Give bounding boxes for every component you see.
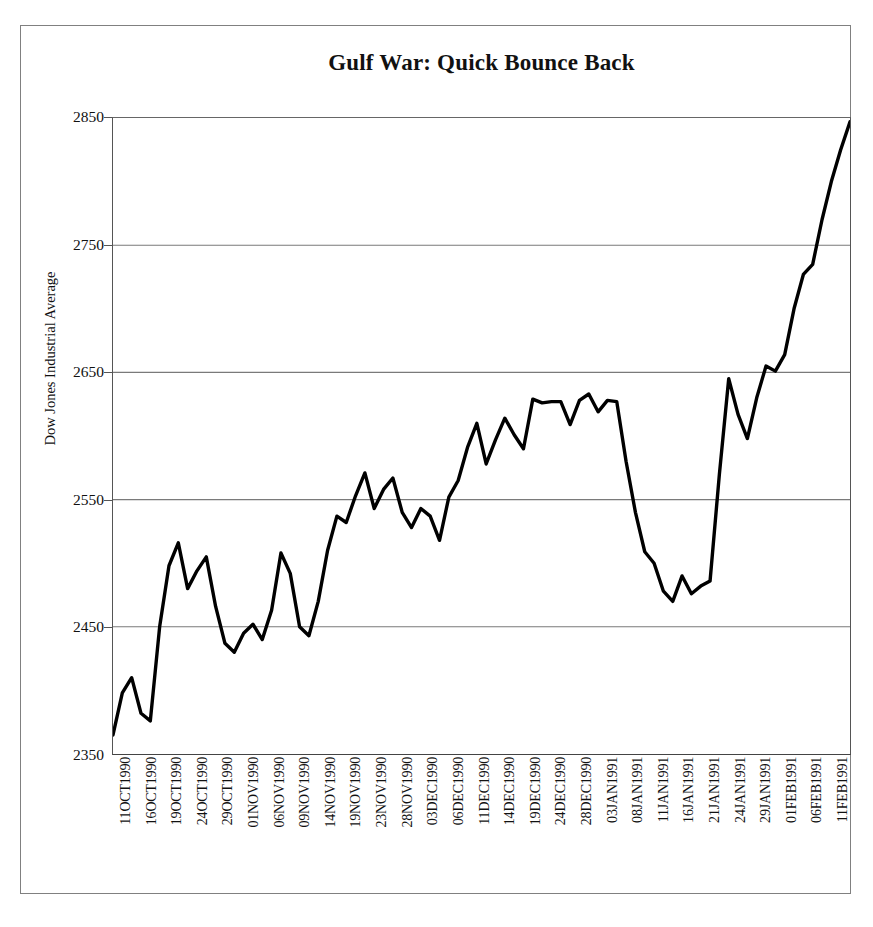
gridlines [113, 245, 850, 627]
x-tick-label: 28DEC1990 [579, 757, 595, 825]
y-tick-label: 2850 [48, 109, 104, 125]
x-tick-label: 28NOV1990 [400, 757, 416, 828]
x-tick-label: 21JAN1991 [707, 757, 723, 823]
chart-container: Gulf War: Quick Bounce Back Dow Jones In… [0, 0, 873, 927]
x-tick-label: 11DEC1990 [477, 757, 493, 825]
chart-title: Gulf War: Quick Bounce Back [112, 50, 851, 76]
x-tick-label: 03DEC1990 [425, 757, 441, 825]
data-line-plot [113, 118, 850, 754]
x-tick-label: 11JAN1991 [656, 757, 672, 822]
x-tick-label: 06DEC1990 [451, 757, 467, 825]
x-tick-label: 24DEC1990 [553, 757, 569, 825]
y-tick-label: 2450 [48, 619, 104, 635]
x-tick-label: 24OCT1990 [195, 757, 211, 825]
y-tick-mark [104, 245, 112, 246]
x-tick-label: 11FEB1991 [835, 757, 851, 822]
y-tick-label: 2350 [48, 747, 104, 763]
x-axis-tick-labels: 11OCT199016OCT199019OCT199024OCT199029OC… [112, 757, 851, 877]
x-tick-label: 08JAN1991 [630, 757, 646, 823]
y-tick-mark [104, 117, 112, 118]
y-tick-label: 2650 [48, 364, 104, 380]
y-axis-tick-labels: 235024502550265027502850 [40, 117, 104, 755]
x-tick-label: 06FEB1991 [809, 757, 825, 823]
x-tick-label: 19NOV1990 [348, 757, 364, 828]
y-tick-label: 2750 [48, 237, 104, 253]
x-tick-label: 09NOV1990 [297, 757, 313, 828]
x-tick-label: 01NOV1990 [246, 757, 262, 828]
x-tick-label: 16JAN1991 [681, 757, 697, 823]
x-tick-label: 14NOV1990 [323, 757, 339, 828]
plot-area [112, 117, 851, 755]
x-tick-label: 19DEC1990 [528, 757, 544, 825]
y-tick-label: 2550 [48, 492, 104, 508]
x-tick-label: 11OCT1990 [118, 757, 134, 825]
x-tick-label: 16OCT1990 [144, 757, 160, 825]
y-tick-mark [104, 500, 112, 501]
x-tick-label: 01FEB1991 [784, 757, 800, 823]
y-tick-mark [104, 627, 112, 628]
x-tick-label: 23NOV1990 [374, 757, 390, 828]
x-tick-label: 24JAN1991 [733, 757, 749, 823]
x-tick-label: 03JAN1991 [605, 757, 621, 823]
y-tick-mark [104, 372, 112, 373]
x-tick-label: 19OCT1990 [169, 757, 185, 825]
x-tick-label: 29JAN1991 [758, 757, 774, 823]
x-tick-label: 29OCT1990 [220, 757, 236, 825]
data-series-line [113, 122, 850, 735]
x-tick-label: 14DEC1990 [502, 757, 518, 825]
x-tick-label: 06NOV1990 [272, 757, 288, 828]
